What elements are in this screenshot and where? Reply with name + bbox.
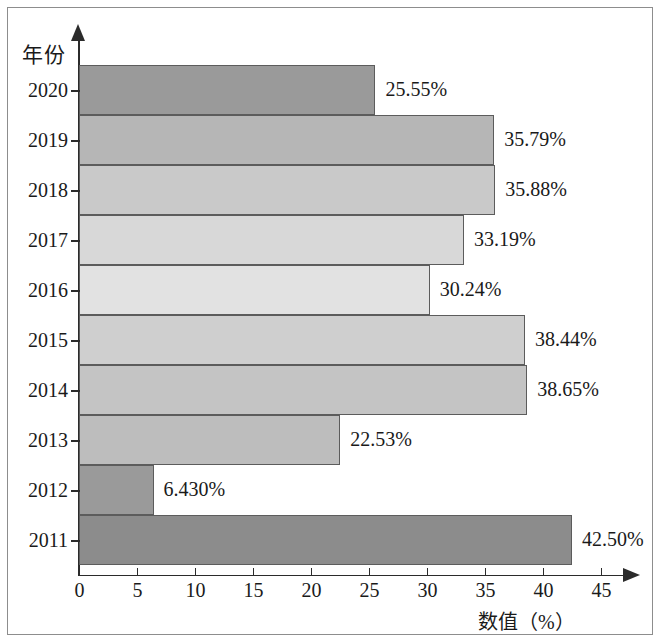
- x-tick-label-15: 15: [244, 579, 264, 602]
- bar-value-label-2017: 33.19%: [474, 228, 536, 251]
- x-tick: [369, 568, 371, 575]
- x-tick-label-0: 0: [75, 579, 85, 602]
- bar-2012: [79, 465, 154, 515]
- x-tick: [137, 568, 139, 575]
- x-tick-label-25: 25: [360, 579, 380, 602]
- y-tick-label-2012: 2012: [12, 479, 68, 502]
- bar-value-label-2013: 22.53%: [350, 428, 412, 451]
- x-tick-label-40: 40: [534, 579, 554, 602]
- bar-value-label-2018: 35.88%: [505, 178, 567, 201]
- bar-2019: [79, 115, 494, 165]
- y-tick: [71, 290, 80, 292]
- bar-row: 22.53%: [79, 415, 500, 465]
- bar-2014: [79, 365, 527, 415]
- bar-row: 25.55%: [79, 65, 535, 115]
- y-tick: [71, 190, 80, 192]
- x-tick-label-5: 5: [133, 579, 143, 602]
- x-tick: [485, 568, 487, 575]
- bar-value-label-2019: 35.79%: [504, 128, 566, 151]
- y-tick-label-2011: 2011: [12, 529, 68, 552]
- y-tick-label-2020: 2020: [12, 79, 68, 102]
- x-tick-label-30: 30: [418, 579, 438, 602]
- bar-2011: [79, 515, 572, 565]
- bar-value-label-2012: 6.430%: [164, 478, 226, 501]
- bar-row: 35.79%: [79, 115, 654, 165]
- x-tick-label-10: 10: [186, 579, 206, 602]
- bar-value-label-2016: 30.24%: [440, 278, 502, 301]
- x-tick: [427, 568, 429, 575]
- bar-row: 35.88%: [79, 165, 655, 215]
- x-tick-label-45: 45: [592, 579, 612, 602]
- y-tick-label-2013: 2013: [12, 429, 68, 452]
- x-axis-title: 数值（%）: [478, 606, 575, 635]
- y-tick: [71, 390, 80, 392]
- y-tick: [71, 90, 80, 92]
- y-tick: [71, 340, 80, 342]
- bar-2016: [79, 265, 430, 315]
- y-tick-label-2018: 2018: [12, 179, 68, 202]
- bar-2017: [79, 215, 464, 265]
- x-tick: [601, 568, 603, 575]
- y-tick-label-2016: 2016: [12, 279, 68, 302]
- x-axis-arrow-icon: [623, 568, 640, 582]
- bar-row: 42.50%: [79, 515, 662, 565]
- y-axis-arrow-icon: [71, 24, 85, 41]
- bar-row: 33.19%: [79, 215, 624, 265]
- x-tick: [543, 568, 545, 575]
- x-tick: [253, 568, 255, 575]
- bar-row: 30.24%: [79, 265, 590, 315]
- y-tick-label-2014: 2014: [12, 379, 68, 402]
- y-tick-label-2019: 2019: [12, 129, 68, 152]
- y-tick-label-2017: 2017: [12, 229, 68, 252]
- bar-value-label-2020: 25.55%: [385, 78, 447, 101]
- bar-value-label-2011: 42.50%: [582, 528, 644, 551]
- bar-row: 6.430%: [79, 465, 314, 515]
- bar-2018: [79, 165, 495, 215]
- x-tick: [195, 568, 197, 575]
- chart-figure: 年份 数值（%） 25.55%35.79%35.88%33.19%30.24%3…: [7, 7, 653, 635]
- bar-row: 38.44%: [79, 315, 662, 365]
- bar-value-label-2014: 38.65%: [537, 378, 599, 401]
- x-tick: [311, 568, 313, 575]
- bar-2015: [79, 315, 525, 365]
- x-tick-label-20: 20: [302, 579, 322, 602]
- bar-row: 38.65%: [79, 365, 662, 415]
- y-tick: [71, 490, 80, 492]
- bar-2013: [79, 415, 340, 465]
- y-tick-label-2015: 2015: [12, 329, 68, 352]
- y-tick: [71, 240, 80, 242]
- y-tick: [71, 140, 80, 142]
- plot-area: 年份 数值（%） 25.55%35.79%35.88%33.19%30.24%3…: [8, 8, 652, 634]
- y-tick: [71, 540, 80, 542]
- bar-value-label-2015: 38.44%: [535, 328, 597, 351]
- y-axis-title: 年份: [22, 38, 66, 68]
- x-tick-label-35: 35: [476, 579, 496, 602]
- bar-2020: [79, 65, 375, 115]
- y-tick: [71, 440, 80, 442]
